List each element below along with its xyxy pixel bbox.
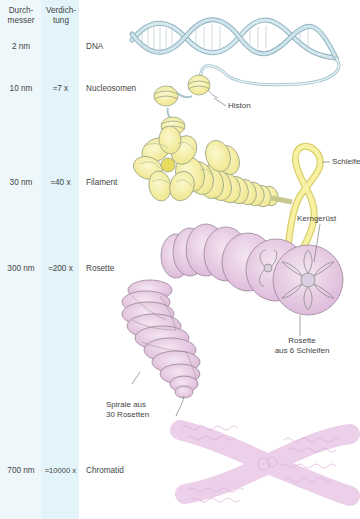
label-loop: Schleife [332,157,360,167]
label-spiral-line2: 30 Rosetten [106,410,149,419]
label-rosette-line2: aus 6 Schleifen [275,346,330,355]
filament-solenoid-icon [130,125,292,209]
label-scaffold: Kerngerüst [297,214,336,224]
label-spiral: Spirale aus 30 Rosetten [106,400,149,420]
chromatin-packing-illustration [0,0,360,519]
dna-helix-icon [132,20,339,92]
label-rosette-line1: Rosette [288,336,316,345]
label-rosette: Rosette aus 6 Schleifen [262,336,342,356]
nucleosome-beads-icon [154,75,218,135]
spiral-leader-line [132,372,140,384]
label-histone: Histon [228,101,251,111]
rosette-coil-icon [122,224,343,398]
chromatid-x-icon [180,426,350,502]
label-spiral-line1: Spirale aus [106,400,146,409]
histone-leader-line [214,98,226,106]
